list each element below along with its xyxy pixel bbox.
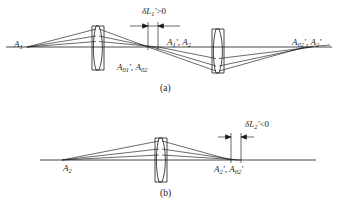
dimension-arrows-b (218, 135, 254, 139)
caption-panel-a: (a) (160, 84, 171, 94)
panel-a-group (6, 22, 332, 73)
dimension-label-b: δL2′<0 (245, 120, 269, 129)
lens-1-panel-a (92, 26, 104, 70)
ray-bundle-a-refracted-1 (99, 29, 158, 47)
label-center-lower-a: A01′, A02 (117, 63, 147, 72)
dimension-label-a: δL1′>0 (142, 7, 166, 16)
ray-bundle-b-refracted (162, 141, 241, 160)
label-object-a1: A1 (14, 40, 23, 49)
label-object-a2: A2 (63, 164, 72, 173)
label-right-image-b: A2′, A02′ (214, 165, 243, 174)
label-center-upper-a: A1′, A2 (167, 38, 191, 47)
dimension-arrows-a (130, 24, 180, 28)
ray-bundle-a-exit (219, 45, 330, 71)
optical-ray-diagram-figure: A1 δL1′>0 A1′, A2 A01′, A02 A02′, A2′ (a… (0, 0, 338, 208)
diagram-canvas (0, 0, 338, 208)
ray-bundle-b-incident (62, 141, 159, 160)
ray-bundle-a-between-lenses (148, 47, 216, 71)
lens-2-panel-a (212, 29, 224, 73)
panel-b-group (40, 133, 316, 182)
label-right-image-a: A02′, A2′ (292, 38, 321, 47)
caption-panel-b: (b) (160, 189, 171, 199)
dimension-extension-lines-b (231, 133, 241, 163)
ray-bundle-a-incident (27, 29, 96, 47)
